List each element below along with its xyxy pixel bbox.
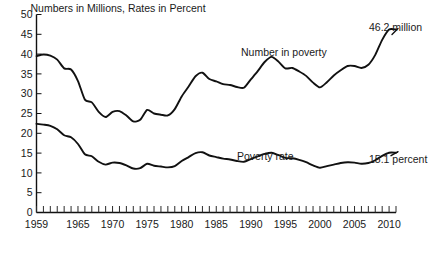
y-tick-label-0: 0: [27, 206, 33, 218]
y-tick-label-20: 20: [21, 127, 33, 139]
endpoint-label-number-in-poverty: 46.2 million: [369, 21, 422, 33]
x-tick-label-1975: 1975: [135, 218, 159, 230]
series-label-poverty-rate: Poverty rate: [237, 150, 294, 162]
endpoint-label-poverty-rate: 15.1 percent: [369, 153, 427, 165]
series-label-number-in-poverty: Number in poverty: [241, 46, 328, 58]
y-tick-label-5: 5: [27, 186, 33, 198]
chart-title: Numbers in Millions, Rates in Percent: [31, 2, 206, 14]
x-tick-label-1970: 1970: [101, 218, 125, 230]
x-tick-label-2000: 2000: [308, 218, 332, 230]
y-tick-label-30: 30: [21, 87, 33, 99]
x-tick-label-1965: 1965: [66, 218, 90, 230]
x-tick-label-1980: 1980: [170, 218, 194, 230]
x-tick-label-2005: 2005: [343, 218, 367, 230]
series-line-poverty-rate: [37, 124, 397, 169]
x-tick-label-1959: 1959: [25, 218, 49, 230]
y-tick-label-40: 40: [21, 48, 33, 60]
x-tick-label-1995: 1995: [274, 218, 298, 230]
y-tick-label-15: 15: [21, 147, 33, 159]
series-line-number-in-poverty: [37, 29, 397, 122]
y-tick-label-45: 45: [21, 28, 33, 40]
y-tick-label-10: 10: [21, 167, 33, 179]
y-tick-label-35: 35: [21, 68, 33, 80]
chart-canvas: 0510152025303540455019591965197019751980…: [0, 0, 441, 254]
x-tick-label-2010: 2010: [377, 218, 401, 230]
x-tick-label-1985: 1985: [205, 218, 229, 230]
poverty-chart: 0510152025303540455019591965197019751980…: [0, 0, 441, 254]
x-tick-label-1990: 1990: [239, 218, 263, 230]
y-tick-label-25: 25: [21, 107, 33, 119]
